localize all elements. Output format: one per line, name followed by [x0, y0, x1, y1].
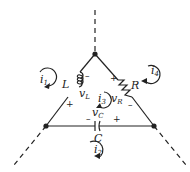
resistor-voltage-label: vR [111, 93, 123, 106]
mesh-label-i1: i1 [40, 74, 48, 87]
resistor-label: R [131, 80, 139, 91]
capacitor-label: C [94, 133, 102, 144]
arrowhead-i4 [141, 78, 147, 84]
capacitor-plus-sign: + [113, 115, 121, 124]
mesh-label-i3: i3 [98, 93, 106, 106]
inductor-label: L [62, 79, 69, 90]
inductor-coil [77, 72, 83, 87]
capacitor-minus-sign: – [86, 115, 91, 124]
capacitor-voltage-label: vC [92, 107, 104, 120]
right-dashed-lead [154, 126, 186, 165]
left-dashed-lead [14, 126, 46, 165]
node-right [151, 123, 156, 128]
inductor-minus-sign: – [85, 72, 90, 81]
resistor-plus-sign: + [110, 74, 118, 83]
mesh-label-i4: i4 [151, 65, 159, 78]
wire-inductor-to-left [46, 97, 68, 126]
inductor-plus-sign: + [66, 100, 74, 109]
node-top [92, 51, 97, 56]
resistor-minus-sign: – [128, 101, 133, 110]
node-left [43, 123, 48, 128]
wire-top-to-inductor [80, 54, 95, 72]
mesh-label-i2: i2 [94, 144, 102, 157]
inductor-voltage-label: vL [79, 88, 90, 101]
wire-resistor-to-right [132, 97, 154, 126]
